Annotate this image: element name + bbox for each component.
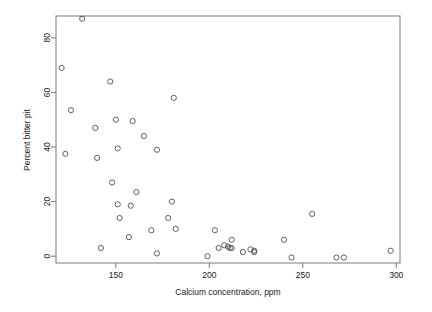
- y-tick-label: 80: [42, 33, 52, 43]
- y-tick-label: 0: [42, 254, 52, 259]
- x-tick-label: 150: [109, 270, 123, 280]
- scatter-plot-figure: 020406080 150200250300 Calcium concentra…: [0, 0, 432, 312]
- x-tick-label: 250: [296, 270, 310, 280]
- y-tick-label: 20: [42, 197, 52, 207]
- x-axis-title: Calcium concentration, ppm: [175, 287, 280, 297]
- x-tick-label: 200: [202, 270, 216, 280]
- y-axis-title: Percent bitter pit: [22, 108, 32, 171]
- plot-canvas: 020406080 150200250300 Calcium concentra…: [0, 0, 432, 312]
- y-tick-label: 60: [42, 87, 52, 97]
- x-tick-label: 300: [389, 270, 403, 280]
- y-tick-label: 40: [42, 142, 52, 152]
